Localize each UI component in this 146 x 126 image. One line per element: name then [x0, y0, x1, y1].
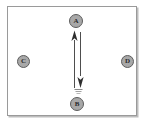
- node-b[interactable]: B: [70, 97, 84, 111]
- node-d-label: D: [125, 58, 130, 65]
- node-c[interactable]: C: [17, 55, 30, 68]
- node-a[interactable]: A: [69, 14, 83, 28]
- node-d[interactable]: D: [121, 55, 134, 68]
- diagram-canvas: A B C D: [0, 0, 146, 126]
- node-c-label: C: [21, 58, 26, 65]
- node-b-label: B: [75, 101, 80, 108]
- node-a-label: A: [73, 18, 78, 25]
